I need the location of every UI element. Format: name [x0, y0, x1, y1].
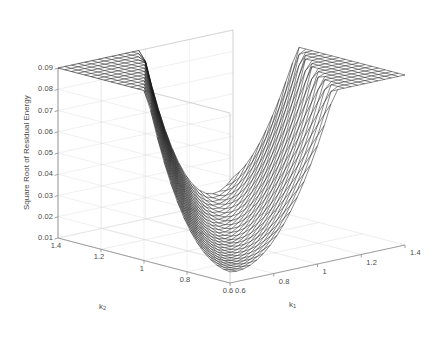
- z-axis-title: Square Root of Residual Energy: [22, 95, 31, 210]
- k1-axis-title: k1: [289, 300, 296, 309]
- z-tick-label: 0.06: [38, 127, 53, 136]
- k1-tick-label: 1.4: [410, 248, 421, 257]
- z-tick-label: 0.04: [38, 169, 53, 178]
- mesh-layer: [58, 47, 405, 272]
- k2-tick-label: 0.8: [180, 275, 191, 284]
- z-tick-label: 0.07: [38, 106, 53, 115]
- z-tick-label: 0.03: [38, 191, 53, 200]
- k1-tick-label: 0.6: [235, 286, 246, 295]
- z-tick-label: 0.02: [38, 212, 53, 221]
- k2-axis-title: k2: [99, 302, 106, 311]
- surface-plot: [0, 0, 434, 340]
- axis-layer: [55, 30, 406, 286]
- z-tick-label: 0.05: [38, 148, 53, 157]
- k2-tick-label: 1: [140, 264, 144, 273]
- k1-tick-label: 1.2: [366, 258, 377, 267]
- k2-tick-label: 0.6: [223, 286, 234, 295]
- z-tick-label: 0.09: [38, 63, 53, 72]
- k1-tick-label: 0.8: [279, 277, 290, 286]
- k2-tick-label: 1.4: [51, 241, 62, 250]
- k2-tick-label: 1.2: [94, 252, 105, 261]
- z-tick-label: 0.08: [38, 84, 53, 93]
- figure-canvas: Square Root of Residual Energy 0.090.080…: [0, 0, 434, 340]
- k1-tick-label: 1: [323, 267, 327, 276]
